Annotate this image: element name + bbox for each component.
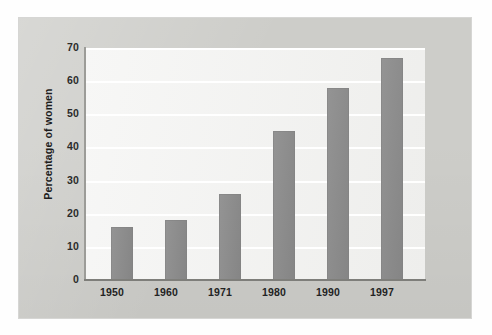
x-tick-label-1971: 1971	[200, 286, 240, 298]
y-tick-label: 0	[49, 274, 79, 285]
y-axis-line	[84, 47, 86, 281]
x-tick-label-1950: 1950	[92, 286, 132, 298]
chart-page: 70 60 50 40 30 20 10 0 Percentage of wom…	[0, 0, 492, 335]
y-tick-label: 20	[49, 208, 79, 219]
x-tick-label-1997: 1997	[362, 286, 402, 298]
gridline-20	[85, 214, 425, 216]
x-tick-label-1980: 1980	[254, 286, 294, 298]
gridline-40	[85, 147, 425, 149]
x-tick-label-1990: 1990	[308, 286, 348, 298]
bar-1990	[327, 88, 349, 280]
bar-1971	[219, 194, 241, 280]
gridline-50	[85, 114, 425, 116]
y-tick-label: 70	[49, 42, 79, 53]
y-axis-title: Percentage of women	[42, 84, 54, 204]
x-tick-label-1960: 1960	[146, 286, 186, 298]
bar-1960	[165, 220, 187, 280]
gridline-10	[85, 247, 425, 249]
bar-1997	[381, 58, 403, 280]
plot-area	[85, 48, 425, 280]
gridline-70	[85, 48, 425, 50]
bar-1980	[273, 131, 295, 280]
y-tick-label: 10	[49, 241, 79, 252]
figure-panel: 70 60 50 40 30 20 10 0 Percentage of wom…	[19, 18, 471, 318]
gridline-60	[85, 81, 425, 83]
bar-1950	[111, 227, 133, 280]
bar-chart: 70 60 50 40 30 20 10 0 Percentage of wom…	[19, 18, 471, 318]
x-axis-line	[84, 279, 426, 281]
gridline-30	[85, 181, 425, 183]
